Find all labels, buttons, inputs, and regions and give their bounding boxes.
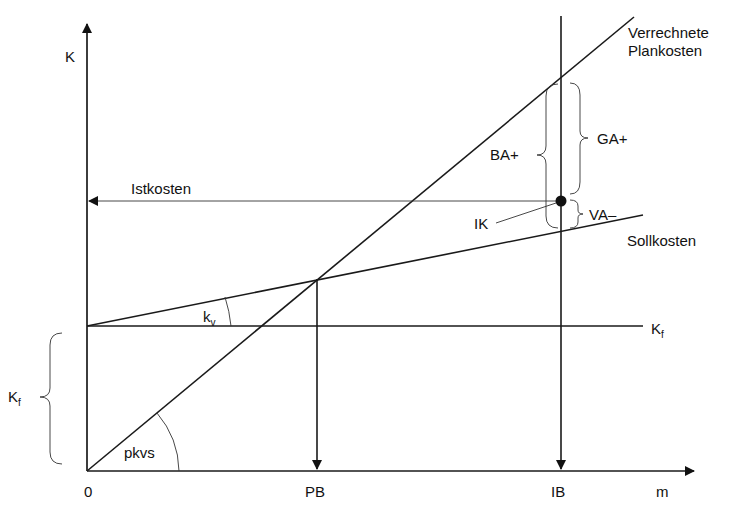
origin-label: 0 [84, 483, 92, 500]
verrechnete-label-2: Plankosten [628, 42, 702, 59]
kv-angle-label: kv [203, 308, 216, 328]
ib-label: IB [551, 483, 565, 500]
kv-angle-arc [225, 297, 231, 326]
ga-brace [570, 83, 588, 194]
ba-brace-label: BA+ [490, 146, 519, 163]
ik-point [556, 196, 567, 207]
istkosten-label: Istkosten [131, 180, 191, 197]
pkvs-angle-arc [157, 413, 179, 471]
pkvs-angle-label: pkvs [124, 444, 155, 461]
x-axis-label: m [656, 483, 669, 500]
sollkosten-line [87, 215, 643, 326]
pb-label: PB [305, 483, 325, 500]
fixed-cost-label: Kf [651, 320, 664, 340]
ba-brace [537, 84, 558, 228]
verrechnete-label-1: Verrechnete [628, 24, 709, 41]
ga-brace-label: GA+ [597, 130, 628, 147]
kf-brace [40, 333, 62, 464]
cost-diagram: K m 0 Kf Sollkosten Verrechnete Plankost… [0, 0, 729, 505]
va-brace [570, 200, 583, 228]
ik-label: IK [474, 215, 488, 232]
va-brace-label: VA– [589, 206, 617, 223]
y-axis-label: K [65, 48, 75, 65]
ik-leader [496, 203, 556, 223]
sollkosten-label: Sollkosten [627, 232, 696, 249]
kf-brace-label: Kf [8, 388, 21, 408]
